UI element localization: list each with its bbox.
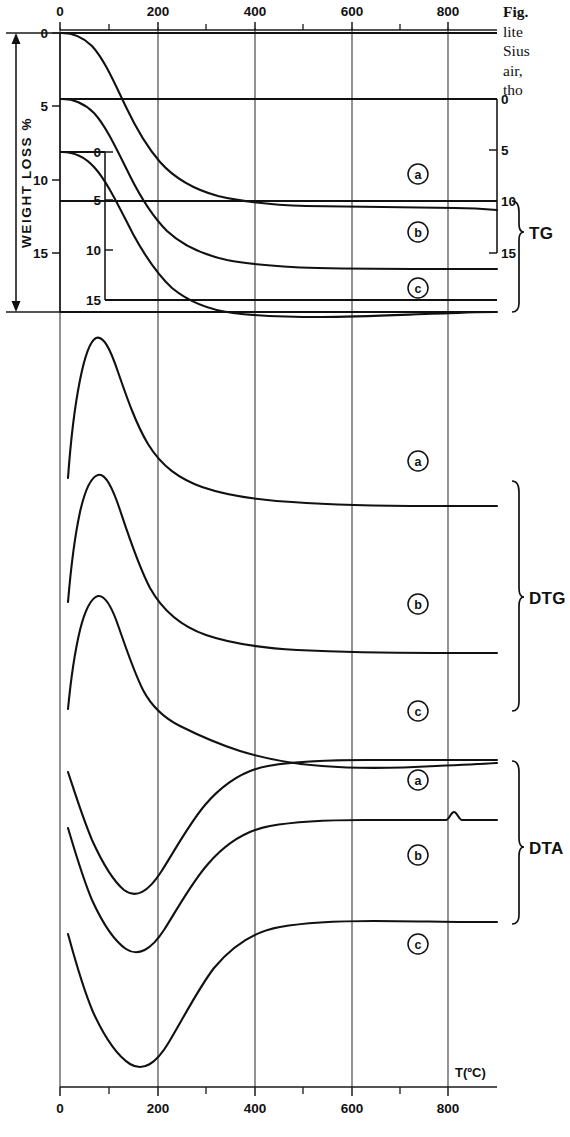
caption-line-1: Fig. [503, 2, 570, 22]
dtg-bracket-group: DTG [512, 481, 566, 711]
dta-curves [68, 760, 497, 1067]
dtg-tag-a: a [408, 451, 428, 471]
tg-tag-a: a [408, 164, 428, 184]
right-tick-15: 15 [501, 246, 517, 261]
left-outer-tick-15: 15 [33, 246, 49, 261]
dta-curve-a [68, 760, 497, 894]
top-x-tick-800: 800 [437, 4, 460, 19]
tg-tag-a-label: a [415, 168, 423, 182]
dta-tag-c: c [408, 934, 428, 954]
tg-curve-a [62, 33, 497, 210]
top-x-tick-0: 0 [56, 4, 64, 19]
tg-tag-b: b [408, 222, 428, 242]
dta-bracket-group: DTA [512, 761, 564, 924]
left-inner-tick-15: 15 [86, 293, 102, 308]
left-outer-tick-10: 10 [33, 173, 48, 188]
dtg-tag-b: b [408, 594, 428, 614]
left-outer-scale: 0 5 10 15 [33, 26, 60, 312]
bottom-x-tick-600: 600 [341, 1101, 364, 1116]
left-outer-tick-0: 0 [40, 26, 48, 41]
dtg-curves [68, 338, 497, 768]
bottom-x-tick-0: 0 [56, 1101, 64, 1116]
dtg-curve-c [68, 596, 497, 768]
dtg-curve-tags: a b c [408, 451, 428, 721]
tg-curve-c [62, 152, 497, 317]
figure-root: 0 200 400 600 800 WEIGHT LOSS % 0 5 10 1… [0, 0, 570, 1137]
tg-bracket-group: TG [512, 201, 553, 312]
dta-tag-a: a [408, 770, 428, 790]
left-inner-scale: 0 5 10 15 [86, 145, 113, 308]
left-outer-tick-5: 5 [40, 99, 48, 114]
group-label-tg: TG [529, 224, 553, 243]
tg-curve-tags: a b c [408, 164, 428, 298]
bottom-x-axis: 0 200 400 600 800 T(ºC) [56, 1065, 497, 1116]
tg-tag-c: c [408, 278, 428, 298]
vertical-gridlines [60, 28, 448, 1087]
dtg-tag-c: c [408, 701, 428, 721]
right-tg-scale: 0 5 10 15 [489, 92, 517, 261]
arrow-head-down [12, 301, 21, 312]
group-label-dtg: DTG [529, 589, 566, 608]
tg-reference-lines [60, 33, 497, 312]
top-x-tick-600: 600 [341, 4, 364, 19]
dtg-tag-b-label: b [414, 598, 422, 612]
y-axis-title: WEIGHT LOSS % [19, 117, 34, 248]
dta-tag-a-label: a [415, 774, 423, 788]
left-inner-tick-10: 10 [86, 243, 101, 258]
tg-tag-b-label: b [414, 226, 422, 240]
dtg-tag-a-label: a [415, 455, 423, 469]
tg-curves [62, 33, 497, 317]
dta-tag-b-label: b [414, 849, 422, 863]
thermal-analysis-figure: 0 200 400 600 800 WEIGHT LOSS % 0 5 10 1… [0, 0, 570, 1137]
tg-curve-b [62, 99, 497, 269]
bottom-x-tick-400: 400 [244, 1101, 267, 1116]
caption-line-4: air, [503, 61, 570, 81]
top-x-tick-400: 400 [244, 4, 267, 19]
figure-caption: Fig. lite Sius air, tho [503, 2, 570, 100]
dta-curve-tags: a b c [408, 770, 428, 954]
caption-line-3: Sius [503, 41, 570, 61]
tg-tag-c-label: c [415, 282, 422, 296]
bottom-x-tick-200: 200 [147, 1101, 170, 1116]
group-label-dta: DTA [529, 839, 564, 858]
arrow-head-up [12, 33, 21, 44]
right-tick-5: 5 [501, 143, 509, 158]
dta-curve-c [68, 921, 497, 1067]
dtg-curve-a [68, 338, 497, 506]
bottom-x-tick-800: 800 [437, 1101, 460, 1116]
caption-line-5: tho [503, 80, 570, 100]
caption-line-2: lite [503, 22, 570, 42]
x-axis-title: T(ºC) [455, 1065, 486, 1080]
dta-tag-b: b [408, 845, 428, 865]
dtg-tag-c-label: c [415, 705, 422, 719]
top-x-tick-200: 200 [147, 4, 170, 19]
dta-curve-b [68, 812, 497, 952]
top-x-axis: 0 200 400 600 800 [56, 4, 497, 30]
dta-tag-c-label: c [415, 938, 422, 952]
